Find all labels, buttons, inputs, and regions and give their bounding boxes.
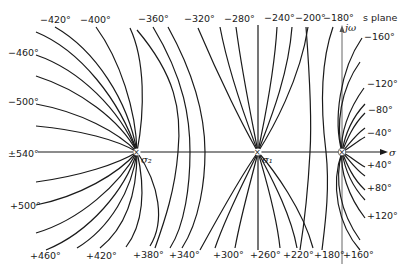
bottom-labels: +460° +420° +380° +340° +300° +260° +220… [30,249,374,261]
jw-axis-arrow-icon [340,25,345,32]
s-plane-title: s plane [363,12,397,23]
angle-label: −280° [224,13,255,24]
angle-label: +260° [250,249,281,260]
pole-marker-icon: × [339,148,346,157]
pole-label-sigma2: σ₂ [141,154,152,165]
angle-label: −320° [184,13,215,24]
angle-label: −460° [8,47,39,58]
angle-label: +220° [283,249,314,260]
curves-origin-lower [336,152,365,250]
pole-label-sigma1: σ₁ [262,154,273,165]
angle-label: −160° [364,31,395,42]
root-locus-diagram: σ jω s plane [0,0,398,267]
curves-sigma1-lower [200,152,313,250]
angle-label: −500° [8,96,39,107]
sigma-axis-label: σ [389,147,397,158]
top-labels: −420° −400° −360° −320° −280° −240° −200… [40,12,354,25]
left-labels: −460° −500° ±540° +500° [8,47,41,211]
angle-label: −360° [138,13,169,24]
jw-axis-label: jω [343,22,356,33]
curves-sigma1-upper [198,25,308,152]
angle-label: +460° [30,250,61,261]
angle-label: −120° [367,78,398,89]
sigma-axis-arrow-icon [380,149,388,155]
angle-label: −80° [368,104,393,115]
angle-label: −40° [367,127,392,138]
angle-label: +40° [367,159,392,170]
angle-label: −420° [40,14,71,25]
pole-origin: × [338,148,346,157]
angle-label: +500° [10,200,41,211]
angle-label: +160° [343,249,374,260]
pole-marker-icon: × [254,148,261,157]
curves-sigma2-lower [36,152,159,250]
pole-sigma1: × σ₁ [254,148,273,165]
angle-label: −400° [80,14,111,25]
angle-label: −240° [264,12,295,23]
curves-middle [137,27,205,248]
curves-sigma1-origin [300,27,333,250]
angle-label: +80° [367,182,392,193]
angle-label: −200° [295,12,326,23]
angle-label: −180° [323,12,354,23]
angle-label: +380° [133,249,164,260]
right-labels: −160° −120° −80° −40° +40° +80° +120° [364,31,398,221]
angle-label: +420° [86,250,117,261]
angle-label: +300° [213,249,244,260]
angle-label: ±540° [8,148,39,159]
curves-sigma2-upper [36,27,142,152]
angle-label: +340° [169,249,200,260]
angle-label: +120° [367,210,398,221]
pole-marker-icon: × [133,148,140,157]
angle-label: +180° [314,249,345,260]
